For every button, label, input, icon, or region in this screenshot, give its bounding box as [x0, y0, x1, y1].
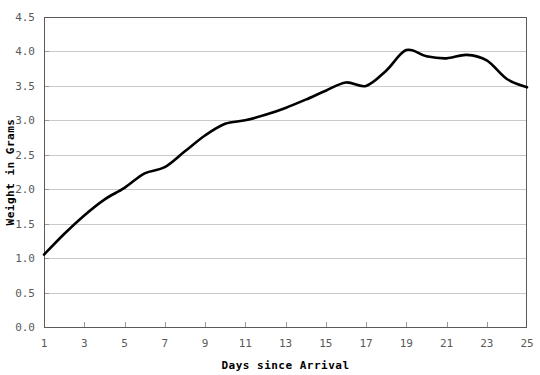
y-tick-label: 3.0	[15, 114, 35, 127]
chart-container: 0.00.51.01.52.02.53.03.54.04.5 135791113…	[0, 0, 540, 375]
line-chart: 0.00.51.01.52.02.53.03.54.04.5 135791113…	[0, 0, 540, 375]
x-tick-label: 7	[161, 337, 168, 350]
y-tick-label: 4.5	[15, 11, 35, 24]
x-tick-label: 1	[41, 337, 48, 350]
y-tick-label: 0.5	[15, 287, 35, 300]
y-tick-label: 2.0	[15, 183, 35, 196]
axis-lines	[44, 17, 527, 328]
y-tick-label: 0.0	[15, 321, 35, 334]
x-tick-label: 19	[400, 337, 413, 350]
x-tick-label: 25	[520, 337, 533, 350]
y-tick-label: 3.5	[15, 80, 35, 93]
x-tick-label: 3	[81, 337, 88, 350]
x-axis-title: Days since Arrival	[221, 359, 349, 372]
x-tick-label: 17	[359, 337, 372, 350]
y-axis-title: Weight in Grams	[4, 119, 17, 226]
y-tick-label: 4.0	[15, 45, 35, 58]
x-tick-label: 9	[202, 337, 209, 350]
y-tick-label: 2.5	[15, 149, 35, 162]
x-tick-label: 23	[480, 337, 493, 350]
x-tick-label: 21	[440, 337, 453, 350]
x-axis-ticks: 135791113151719212325	[41, 322, 534, 350]
grid-lines	[44, 18, 527, 294]
x-tick-label: 15	[319, 337, 332, 350]
y-tick-label: 1.0	[15, 252, 35, 265]
y-tick-label: 1.5	[15, 218, 35, 231]
x-tick-label: 13	[279, 337, 292, 350]
x-tick-label: 5	[121, 337, 128, 350]
x-tick-label: 11	[239, 337, 252, 350]
